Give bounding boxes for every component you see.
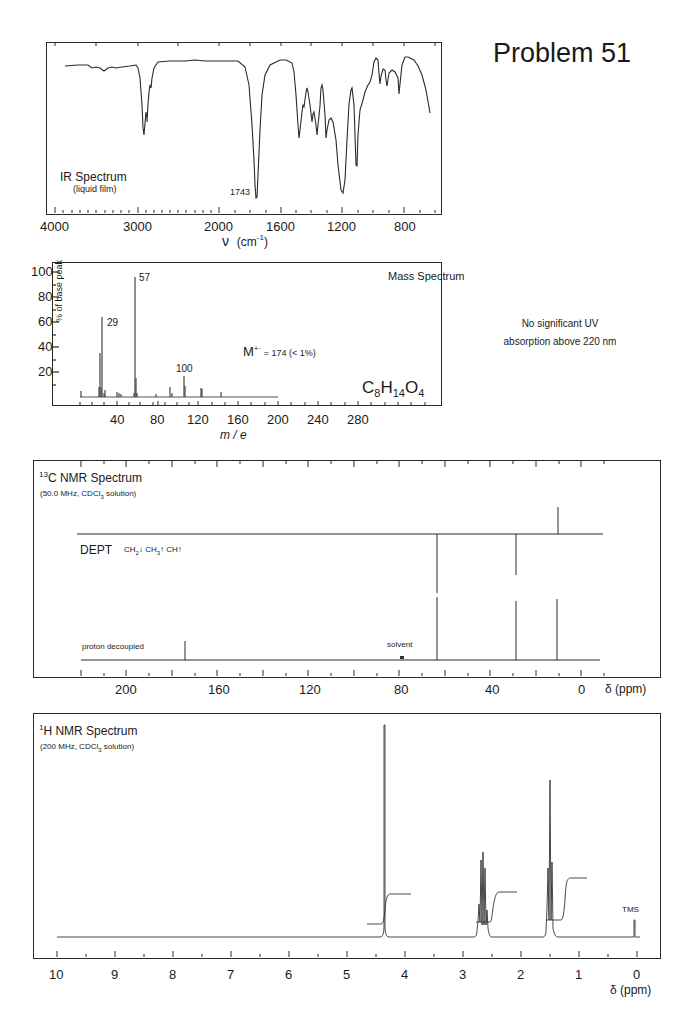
h1-xtick-3: 3 [459, 967, 466, 982]
h1-sublabel-post: solution) [102, 742, 134, 751]
h1-xtick-5: 5 [343, 967, 350, 982]
h1-nmr-plot [0, 0, 693, 1018]
h1-xtick-7: 7 [227, 967, 234, 982]
h1-xtick-1: 1 [575, 967, 582, 982]
h1-xtick-8: 8 [169, 967, 176, 982]
h1-xtick-10: 10 [49, 967, 63, 982]
h1-xtick-6: 6 [285, 967, 292, 982]
h1-sublabel: (200 MHz, CDCl3 solution) [40, 742, 134, 753]
h1-sublabel-pre: (200 MHz, CDCl [40, 742, 98, 751]
h1-xtick-4: 4 [401, 967, 408, 982]
h1-xtick-0: 0 [633, 967, 640, 982]
tms-label: TMS [622, 905, 639, 914]
h1-xtick-2: 2 [517, 967, 524, 982]
h1-xunit: δ (ppm) [610, 983, 651, 997]
h1-label: 1H NMR Spectrum [39, 723, 137, 738]
h1-xtick-9: 9 [111, 967, 118, 982]
h1-label-text: H NMR Spectrum [43, 724, 137, 738]
